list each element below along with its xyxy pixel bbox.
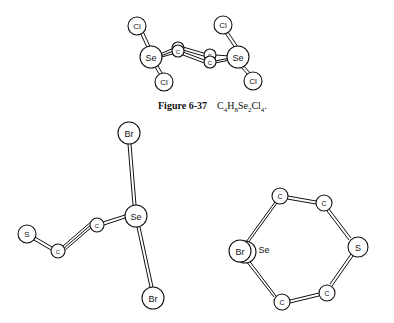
atom-s: S	[348, 237, 368, 257]
atom-br: Br	[118, 122, 140, 144]
atom-cl: Cl	[128, 17, 146, 35]
svg-text:S: S	[24, 230, 29, 239]
svg-text:C: C	[56, 249, 61, 255]
atom-c: C	[51, 244, 65, 258]
atom-s: S	[18, 225, 36, 243]
figure-label: Figure 6-37	[158, 100, 207, 111]
svg-text:Cl: Cl	[160, 78, 168, 87]
molecular-structure-diagrams: ClSeClCCCCSeClCl BrSeCCSBr CCSCCBr Se	[0, 0, 394, 323]
svg-text:Br: Br	[125, 129, 134, 139]
svg-text:Br: Br	[149, 294, 158, 304]
bottom-right-molecule-atoms: CCSCCBr	[229, 188, 368, 310]
bottom-left-molecule-atoms: BrSeCCSBr	[18, 122, 164, 309]
svg-text:C: C	[321, 200, 326, 207]
atom-cl: Cl	[155, 73, 173, 91]
svg-text:C: C	[95, 223, 100, 229]
atom-c: C	[272, 188, 288, 204]
svg-text:C: C	[277, 193, 282, 200]
atom-br: Br	[229, 240, 251, 262]
svg-text:Se: Se	[130, 212, 141, 222]
atom-c: C	[90, 218, 104, 232]
svg-text:Cl: Cl	[219, 21, 227, 30]
atom-c: C	[172, 45, 184, 57]
atom-se: Se	[125, 205, 147, 227]
svg-text:C: C	[176, 49, 181, 55]
svg-text:Se: Se	[145, 53, 156, 63]
atom-c: C	[316, 195, 332, 211]
svg-text:Se: Se	[232, 53, 243, 63]
atom-c: C	[204, 56, 216, 68]
atom-se: Se	[227, 46, 249, 68]
atom-br: Br	[142, 287, 164, 309]
svg-text:Cl: Cl	[133, 22, 141, 31]
svg-text:Br: Br	[236, 247, 245, 257]
svg-text:C: C	[279, 299, 284, 306]
ring-se-label: Se	[258, 245, 269, 255]
atom-cl: Cl	[244, 72, 262, 90]
figure-caption: Figure 6-37C4H8Se2Cl4.	[158, 100, 267, 114]
svg-text:Cl: Cl	[249, 77, 257, 86]
atom-c: C	[319, 285, 335, 301]
svg-text:C: C	[324, 290, 329, 297]
chemical-formula: C4H8Se2Cl4.	[217, 100, 267, 111]
atom-cl: Cl	[214, 16, 232, 34]
svg-text:C: C	[208, 60, 213, 66]
svg-text:S: S	[355, 243, 361, 253]
atom-c: C	[274, 294, 290, 310]
atom-se: Se	[140, 46, 162, 68]
